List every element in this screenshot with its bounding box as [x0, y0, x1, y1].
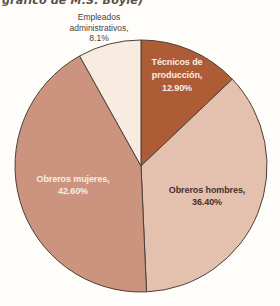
slice-label-obreros-hombres: Obreros hombres, 36.40%	[169, 184, 245, 208]
slice-label-line: Obreros mujeres,	[37, 173, 110, 185]
slice-label-line: Técnicos de	[152, 56, 203, 69]
slice-label-line: 8.1%	[69, 33, 128, 44]
slice-label-line: 12.90%	[152, 82, 203, 95]
slice-label-line: 42.60%	[37, 185, 110, 197]
pie-chart	[0, 0, 280, 306]
slice-label-line: 36.40%	[169, 196, 245, 208]
slice-label-line: Obreros hombres,	[169, 184, 245, 196]
slice-label-tecnicos-de-produccion: Técnicos de producción, 12.90%	[152, 56, 203, 95]
slice-label-line: Empleados	[69, 12, 128, 23]
slice-label-empleados-administrativos: Empleados administrativos, 8.1%	[69, 12, 128, 44]
slice-label-line: administrativos,	[69, 23, 128, 34]
pie-chart-figure: gráfico de M.S. Boyle) Empleados adminis…	[0, 0, 280, 306]
slice-label-obreros-mujeres: Obreros mujeres, 42.60%	[37, 173, 110, 197]
slice-label-line: producción,	[152, 69, 203, 82]
